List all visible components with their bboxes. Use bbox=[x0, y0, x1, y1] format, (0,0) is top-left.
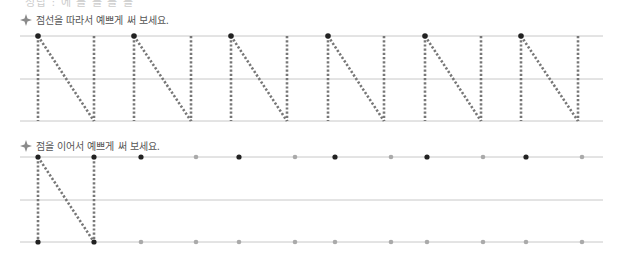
start-point-dot bbox=[518, 33, 524, 39]
start-point-dot bbox=[131, 33, 137, 39]
connect-dot[interactable] bbox=[523, 154, 528, 159]
connect-dot[interactable] bbox=[91, 239, 96, 244]
connect-dot[interactable] bbox=[332, 154, 337, 159]
connect-dot[interactable] bbox=[139, 240, 144, 245]
connect-dot[interactable] bbox=[194, 240, 199, 245]
connect-dot[interactable] bbox=[333, 240, 338, 245]
start-point-dot bbox=[325, 33, 331, 39]
connect-dot[interactable] bbox=[236, 154, 241, 159]
connect-dot[interactable] bbox=[580, 240, 585, 245]
connect-dot[interactable] bbox=[389, 240, 394, 245]
connect-dot[interactable] bbox=[293, 240, 298, 245]
connect-dot[interactable] bbox=[524, 240, 529, 245]
connect-dot[interactable] bbox=[91, 154, 96, 159]
connect-dot[interactable] bbox=[138, 154, 143, 159]
connect-dot[interactable] bbox=[481, 155, 486, 160]
connect-dot[interactable] bbox=[293, 155, 298, 160]
connect-dot[interactable] bbox=[237, 240, 242, 245]
start-point-dot bbox=[422, 33, 428, 39]
connect-dot[interactable] bbox=[35, 154, 40, 159]
connect-dot[interactable] bbox=[389, 155, 394, 160]
connect-dot[interactable] bbox=[425, 240, 430, 245]
connect-dot[interactable] bbox=[580, 155, 585, 160]
writing-practice-sheet[interactable] bbox=[0, 0, 618, 261]
connect-dot[interactable] bbox=[424, 154, 429, 159]
connect-dot[interactable] bbox=[481, 240, 486, 245]
start-point-dot bbox=[228, 33, 234, 39]
start-point-dot bbox=[35, 33, 41, 39]
connect-dot[interactable] bbox=[35, 239, 40, 244]
connect-dot[interactable] bbox=[194, 155, 199, 160]
